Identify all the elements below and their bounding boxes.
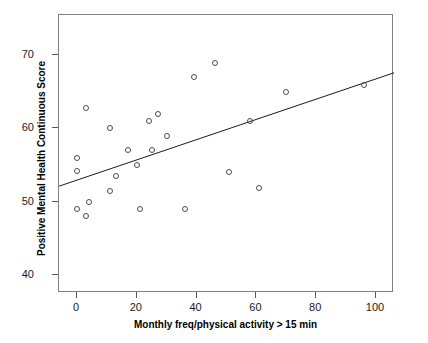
y-axis-tick <box>52 274 58 275</box>
plot-frame <box>58 14 393 292</box>
plot-area <box>59 15 392 291</box>
data-point <box>226 169 232 175</box>
y-axis-tick-label: 70 <box>22 48 34 60</box>
data-point <box>83 213 89 219</box>
x-axis-tick-label: 80 <box>309 301 321 313</box>
data-point <box>164 133 170 139</box>
data-point <box>182 206 188 212</box>
data-point <box>107 188 113 194</box>
data-point <box>113 173 119 179</box>
y-axis-title: Positive Mental Health Continuous Score <box>36 34 47 284</box>
x-axis-tick <box>196 292 197 298</box>
data-point <box>83 105 89 111</box>
data-point <box>74 206 80 212</box>
data-point <box>86 199 92 205</box>
y-axis-tick-label: 50 <box>22 195 34 207</box>
y-axis-tick <box>52 54 58 55</box>
data-point <box>125 147 131 153</box>
regression-line <box>59 15 394 293</box>
x-axis-title: Monthly freq/physical activity > 15 min <box>58 319 393 330</box>
x-axis-tick-label: 100 <box>366 301 384 313</box>
data-point <box>212 60 218 66</box>
data-point <box>74 155 80 161</box>
x-axis-tick <box>76 292 77 298</box>
x-axis-tick <box>315 292 316 298</box>
data-point <box>137 206 143 212</box>
x-axis-tick-label: 0 <box>73 301 79 313</box>
scatter-plot-figure: 40506070020406080100 Positive Mental Hea… <box>0 0 428 343</box>
y-axis-tick-label: 60 <box>22 121 34 133</box>
x-axis-tick-label: 60 <box>249 301 261 313</box>
y-axis-tick <box>52 127 58 128</box>
x-axis-tick <box>375 292 376 298</box>
data-point <box>155 111 161 117</box>
data-point <box>74 168 80 174</box>
data-point <box>146 118 152 124</box>
y-axis-tick-label: 40 <box>22 268 34 280</box>
x-axis-tick <box>255 292 256 298</box>
x-axis-tick-label: 40 <box>189 301 201 313</box>
y-axis-tick <box>52 201 58 202</box>
data-point <box>256 185 262 191</box>
data-point <box>247 118 253 124</box>
data-point <box>283 89 289 95</box>
data-point <box>134 162 140 168</box>
x-axis-tick-label: 20 <box>130 301 142 313</box>
data-point <box>149 147 155 153</box>
x-axis-tick <box>136 292 137 298</box>
data-point <box>361 82 367 88</box>
data-point <box>107 125 113 131</box>
data-point <box>191 74 197 80</box>
